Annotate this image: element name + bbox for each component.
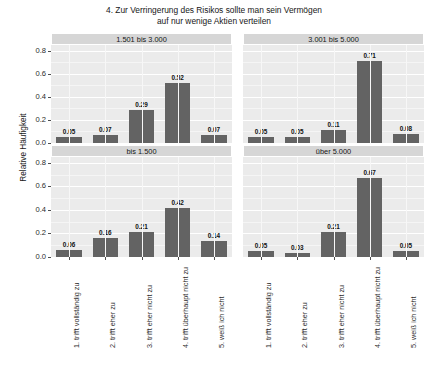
gridline-vertical: [142, 45, 143, 143]
gridline-vertical: [334, 45, 335, 143]
facet-panel: bis 1.5000.060.160.210.420.14: [51, 145, 232, 257]
gridline-vertical: [105, 157, 106, 257]
x-axis-tick-label: 4. trifft überhaupt nicht zu: [373, 267, 382, 348]
y-axis-tick-label: 0.8: [20, 46, 46, 55]
gridline-vertical: [214, 45, 215, 143]
y-axis-tick-mark: [48, 143, 51, 144]
gridline-vertical: [142, 157, 143, 257]
gridline-vertical: [370, 157, 371, 257]
x-axis-tick-label: 4. trifft überhaupt nicht zu: [181, 267, 190, 348]
plot-area: 0.050.050.110.710.08: [243, 45, 424, 143]
y-axis-tick-mark: [48, 257, 51, 258]
gridline-vertical: [105, 45, 106, 143]
gridline-vertical: [406, 157, 407, 257]
y-axis-tick-label: 0.8: [20, 158, 46, 167]
gridline-vertical: [297, 45, 298, 143]
x-axis-tick-label: 2. trifft eher zu: [300, 302, 309, 348]
y-axis-tick-label: 0.4: [20, 205, 46, 214]
gridline-vertical: [297, 157, 298, 257]
y-axis-tick-label: 0.0: [20, 252, 46, 261]
x-axis-tick-mark: [178, 257, 179, 260]
plot-area: 0.060.160.210.420.14: [51, 157, 232, 257]
facet-panel: über 5.0000.050.030.210.670.05: [243, 145, 424, 257]
x-axis-tick-label: 3. trifft eher nicht zu: [145, 285, 154, 348]
facet-strip-label: über 5.000: [243, 145, 424, 157]
footer-clipped-text: [30, 372, 260, 376]
gridline-vertical: [406, 45, 407, 143]
chart-title: 4. Zur Verringerung des Risikos sollte m…: [0, 5, 428, 27]
x-axis-tick-label: 1. trifft vollständig zu: [72, 283, 81, 348]
x-axis-tick-mark: [214, 257, 215, 260]
y-axis-tick-label: 0.0: [20, 138, 46, 147]
y-axis-tick-label: 0.6: [20, 69, 46, 78]
gridline-vertical: [370, 45, 371, 143]
facet-panel: 1.501 bis 3.0000.050.070.290.520.07: [51, 33, 232, 143]
x-axis-tick-mark: [105, 257, 106, 260]
gridline-vertical: [334, 157, 335, 257]
x-axis-tick-mark: [142, 257, 143, 260]
x-axis-tick-label: 5. weiß ich nicht: [217, 296, 226, 348]
x-axis-tick-mark: [406, 257, 407, 260]
x-axis-tick-mark: [69, 257, 70, 260]
x-axis-tick-mark: [334, 257, 335, 260]
gridline-vertical: [178, 157, 179, 257]
x-axis-tick-mark: [297, 257, 298, 260]
gridline-vertical: [261, 157, 262, 257]
x-axis-tick-label: 2. trifft eher zu: [108, 302, 117, 348]
x-axis-tick-mark: [370, 257, 371, 260]
gridline-vertical: [261, 45, 262, 143]
facet-strip-label: 3.001 bis 5.000: [243, 33, 424, 45]
facet-panel: 3.001 bis 5.0000.050.050.110.710.08: [243, 33, 424, 143]
gridline-vertical: [69, 157, 70, 257]
facet-strip-label: 1.501 bis 3.000: [51, 33, 232, 45]
x-axis-tick-label: 1. trifft vollständig zu: [264, 283, 273, 348]
x-axis-tick-mark: [261, 257, 262, 260]
plot-area: 0.050.030.210.670.05: [243, 157, 424, 257]
gridline-vertical: [214, 157, 215, 257]
y-axis-tick-label: 0.4: [20, 92, 46, 101]
plot-area: 0.050.070.290.520.07: [51, 45, 232, 143]
chart-title-line-2: auf nur wenige Aktien verteilen: [0, 16, 428, 27]
x-axis-tick-label: 3. trifft eher nicht zu: [337, 285, 346, 348]
faceted-bar-chart: 4. Zur Verringerung des Risikos sollte m…: [0, 0, 428, 377]
facet-strip-label: bis 1.500: [51, 145, 232, 157]
gridline-vertical: [69, 45, 70, 143]
gridline-vertical: [178, 45, 179, 143]
x-axis-tick-label: 5. weiß ich nicht: [409, 296, 418, 348]
y-axis-tick-label: 0.2: [20, 115, 46, 124]
y-axis-tick-label: 0.6: [20, 181, 46, 190]
y-axis-tick-label: 0.2: [20, 228, 46, 237]
chart-title-line-1: 4. Zur Verringerung des Risikos sollte m…: [0, 5, 428, 16]
